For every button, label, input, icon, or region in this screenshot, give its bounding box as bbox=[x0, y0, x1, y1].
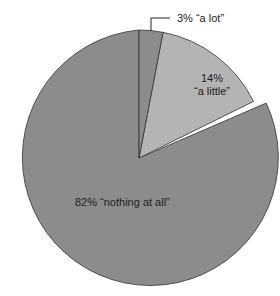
label-a-little-text: “a little” bbox=[180, 85, 244, 98]
pie-chart bbox=[0, 0, 280, 296]
label-a-little-pct: 14% bbox=[188, 72, 236, 85]
label-a-lot: 3% “a lot” bbox=[177, 12, 224, 25]
label-nothing-at-all: 82% “nothing at all” bbox=[75, 196, 170, 209]
callout-line bbox=[151, 18, 170, 31]
